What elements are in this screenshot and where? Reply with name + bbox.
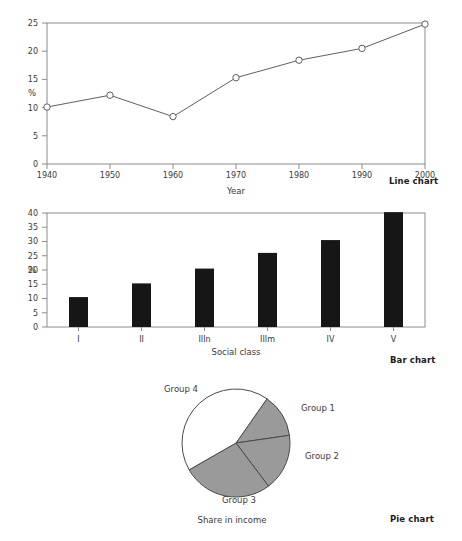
bar-V (384, 212, 403, 327)
line-xtick-1990: 1990 (352, 171, 372, 180)
line-data-point (107, 92, 113, 98)
line-data-point (359, 45, 365, 51)
bar-ytick-30: 30 (28, 237, 38, 246)
line-xtick-1950: 1950 (100, 171, 120, 180)
line-ytick-25: 25 (28, 19, 38, 28)
line-ytick-20: 20 (28, 47, 38, 56)
bar-IIIn (195, 269, 214, 327)
pie-title: Share in income (198, 515, 267, 525)
bar-ytick-5: 5 (33, 309, 38, 318)
pie-label-group-4: Group 4 (164, 384, 198, 394)
line-data-point (44, 104, 50, 110)
line-y-axis-label: % (28, 88, 36, 98)
bar-IIIm (258, 253, 277, 327)
bar-plot-frame (47, 213, 425, 327)
line-chart-figure: 0 5 10 15 20 25 1940 1950 1960 1970 1980… (0, 8, 462, 188)
bar-ytick-25: 25 (28, 252, 38, 261)
bar-ytick-10: 10 (28, 294, 38, 303)
pie-label-group-2: Group 2 (305, 451, 339, 461)
line-ytick-15: 15 (28, 75, 38, 84)
bar-ytick-15: 15 (28, 280, 38, 289)
pie-slices (182, 389, 290, 497)
line-series (47, 24, 425, 116)
line-xtick-1960: 1960 (163, 171, 183, 180)
bar-x-axis-label: Social class (211, 347, 261, 357)
line-xtick-1980: 1980 (289, 171, 309, 180)
line-xtick-1940: 1940 (37, 171, 57, 180)
line-data-point (422, 21, 428, 27)
bar-category-IV: IV (327, 335, 335, 344)
bar-II (132, 283, 151, 327)
line-xtick-1970: 1970 (226, 171, 246, 180)
line-ytick-10: 10 (28, 104, 38, 113)
line-plot-frame (47, 23, 425, 164)
pie-label-group-3: Group 3 (222, 495, 256, 505)
bar-category-V: V (391, 335, 397, 344)
bar-ytick-0: 0 (33, 323, 38, 332)
bar-chart-figure: 0510152025303540 IIIIIInIIImIVV % Social… (0, 205, 462, 355)
bar-category-IIIm: IIIm (260, 335, 275, 344)
bar-y-axis-label: % (28, 265, 36, 275)
bar-ytick-35: 35 (28, 223, 38, 232)
pie-chart-caption: Pie chart (390, 514, 434, 524)
bar-category-II: II (139, 335, 144, 344)
line-x-axis-label: Year (226, 186, 246, 196)
line-ytick-5: 5 (33, 132, 38, 141)
bar-category-I: I (77, 335, 79, 344)
line-markers (44, 21, 428, 120)
bar-ytick-40: 40 (28, 209, 38, 218)
line-data-point (233, 75, 239, 81)
bar-IV (321, 240, 340, 327)
bar-x-axis (79, 327, 394, 331)
line-data-point (296, 57, 302, 63)
line-data-point (170, 113, 176, 119)
bar-series (69, 212, 403, 327)
bar-category-labels: IIIIIInIIImIVV (77, 335, 396, 344)
bar-chart-svg: 0510152025303540 IIIIIInIIImIVV % Social… (0, 205, 462, 355)
bar-chart-caption: Bar chart (390, 355, 435, 365)
line-chart-caption: Line chart (389, 176, 438, 186)
line-chart-svg: 0 5 10 15 20 25 1940 1950 1960 1970 1980… (0, 8, 462, 188)
line-x-axis: 1940 1950 1960 1970 1980 1990 2000 (37, 164, 435, 180)
pie-label-group-1: Group 1 (301, 403, 335, 413)
line-ytick-0: 0 (33, 160, 38, 169)
bar-I (69, 297, 88, 327)
bar-category-IIIn: IIIn (198, 335, 210, 344)
